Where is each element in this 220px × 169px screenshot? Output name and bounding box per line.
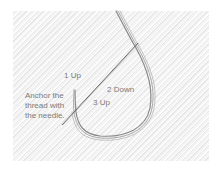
step-3-up-label: 3 Up [93, 98, 110, 108]
anchor-instruction-label: Anchor the thread with the needle. [25, 91, 73, 121]
step-2-down-label: 2 Down [107, 85, 134, 95]
needle [62, 43, 139, 125]
step-1-up-label: 1 Up [64, 71, 81, 81]
thread [72, 11, 155, 140]
